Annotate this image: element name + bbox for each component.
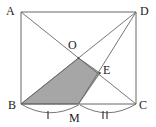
geometry-canvas: [0, 0, 156, 127]
cevian-DM-line: [79, 12, 137, 104]
point-label-M: M: [69, 112, 80, 124]
vertex-dot-O: [78, 57, 80, 59]
shaded-region-BOEM: [21, 58, 100, 104]
point-label-C: C: [139, 99, 147, 111]
point-label-O: O: [68, 39, 77, 51]
geometry-figure: A D B C O E M: [0, 0, 156, 127]
point-label-B: B: [8, 99, 16, 111]
point-label-E: E: [103, 64, 110, 76]
point-label-D: D: [140, 5, 149, 17]
arc-MC-path: [80, 104, 136, 113]
point-label-A: A: [6, 5, 15, 17]
vertex-dot-E: [99, 72, 101, 74]
